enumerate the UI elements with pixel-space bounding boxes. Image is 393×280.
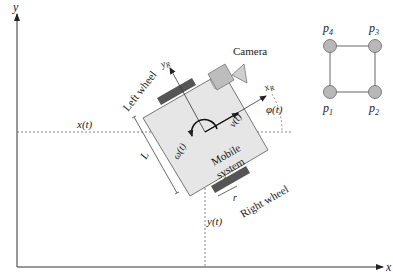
left-wheel-label: Left wheel bbox=[120, 69, 159, 114]
formation-square bbox=[324, 40, 382, 99]
radius-label: r bbox=[233, 192, 237, 203]
robot-y-axis-label: yR bbox=[157, 56, 172, 72]
length-label: L bbox=[137, 150, 151, 162]
node-p3 bbox=[369, 40, 382, 53]
node-p2 bbox=[369, 86, 382, 99]
p2-label: p2 bbox=[368, 101, 379, 117]
camera-label: Camera bbox=[233, 45, 267, 57]
node-p1 bbox=[324, 86, 337, 99]
robot-kinematics-diagram: y x x(t) y(t) Camera Left wheel Right wh… bbox=[0, 0, 393, 280]
x-of-t-label: x(t) bbox=[76, 118, 93, 131]
p3-label: p3 bbox=[368, 21, 379, 37]
x-axis-label: x bbox=[385, 260, 392, 274]
robot-body bbox=[143, 72, 268, 196]
p4-label: p4 bbox=[322, 21, 333, 37]
p1-label: p1 bbox=[322, 101, 333, 117]
right-wheel-label: Right wheel bbox=[238, 183, 290, 220]
node-p4 bbox=[324, 40, 337, 53]
y-axis-label: y bbox=[12, 0, 19, 14]
robot-x-axis-label: xR bbox=[261, 79, 276, 95]
heading-label: φ(t) bbox=[266, 103, 283, 116]
y-of-t-label: y(t) bbox=[206, 215, 223, 228]
